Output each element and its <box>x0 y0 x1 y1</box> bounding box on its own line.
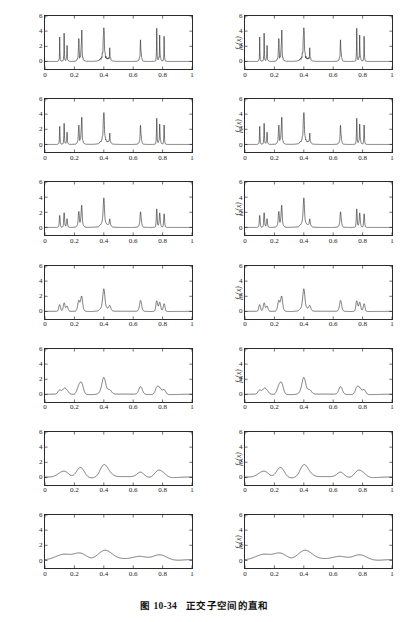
y-tick-label: 4 <box>39 360 43 367</box>
x-tick-label: 0.4 <box>299 154 308 162</box>
y-tick-label: 6 <box>239 13 243 20</box>
signal-curve <box>245 550 392 560</box>
x-tick-label: 0.2 <box>270 570 279 578</box>
x-tick-label: 0.4 <box>99 320 108 328</box>
plot-panel-r5-c2: f4(x)+g4(x)024600.20.40.60.81 <box>200 343 400 426</box>
plot-panel-r1-c2: f0(x)+g0(x)024600.20.40.60.81 <box>200 10 400 93</box>
plot-row: f4(x)024600.20.40.60.81f5(x)+g5(x)024600… <box>0 426 409 509</box>
x-tick-label: 0.2 <box>70 71 79 79</box>
plot-panel-r1-c1: f(x)024600.20.40.60.81 <box>0 10 200 93</box>
plot-panel-r7-c1: f5(x)024600.20.40.60.81 <box>0 509 200 592</box>
plot-row: f2(x)024600.20.40.60.81f3(x)+g3(x)024600… <box>0 260 409 343</box>
y-tick-label: 0 <box>239 474 243 481</box>
x-tick-label: 0 <box>243 154 247 162</box>
x-tick-label: 0.2 <box>70 320 79 328</box>
y-tick-label: 2 <box>239 292 243 299</box>
y-tick-label: 0 <box>39 307 43 314</box>
y-tick-label: 0 <box>239 141 243 148</box>
x-tick-label: 0.6 <box>329 570 338 578</box>
plot-panel-r3-c1: f1(x)024600.20.40.60.81 <box>0 176 200 259</box>
x-tick-label: 0.6 <box>329 154 338 162</box>
x-tick-label: 1 <box>190 320 194 328</box>
y-tick-label: 6 <box>39 179 43 186</box>
axes-box: 024600.20.40.60.81 <box>244 15 393 70</box>
axes-box: 024600.20.40.60.81 <box>44 98 193 153</box>
plot-curve-svg <box>45 182 192 235</box>
plot-panel-r3-c2: f2(x)+g2(x)024600.20.40.60.81 <box>200 176 400 259</box>
y-tick-label: 4 <box>239 194 243 201</box>
y-tick-label: 0 <box>39 58 43 65</box>
x-tick-label: 0.4 <box>99 570 108 578</box>
plot-panel-r5-c1: f3(x)024600.20.40.60.81 <box>0 343 200 426</box>
signal-curve <box>45 288 192 311</box>
x-tick-label: 0 <box>243 237 247 245</box>
y-tick-label: 6 <box>239 179 243 186</box>
x-tick-label: 0.8 <box>358 403 367 411</box>
y-tick-label: 6 <box>39 428 43 435</box>
axes-box: 024600.20.40.60.81 <box>44 431 193 486</box>
x-tick-label: 0 <box>243 71 247 79</box>
x-tick-label: 0.8 <box>358 320 367 328</box>
y-tick-label: 0 <box>239 557 243 564</box>
y-tick-label: 2 <box>239 459 243 466</box>
x-tick-label: 0.6 <box>329 71 338 79</box>
x-tick-label: 0.2 <box>270 320 279 328</box>
x-tick-label: 0.8 <box>158 570 167 578</box>
plot-panel-r2-c1: f0(x)024600.20.40.60.81 <box>0 93 200 176</box>
x-tick-label: 0.8 <box>158 486 167 494</box>
x-tick-label: 0.6 <box>329 486 338 494</box>
x-tick-label: 0 <box>43 403 47 411</box>
x-tick-label: 0.4 <box>99 154 108 162</box>
x-tick-label: 1 <box>390 154 394 162</box>
x-tick-label: 0.2 <box>270 71 279 79</box>
plot-curve-svg <box>245 266 392 319</box>
y-tick-label: 0 <box>239 58 243 65</box>
y-tick-label: 4 <box>39 194 43 201</box>
y-tick-label: 4 <box>239 111 243 118</box>
y-tick-label: 2 <box>39 459 43 466</box>
signal-curve <box>245 198 392 228</box>
x-tick-label: 1 <box>190 71 194 79</box>
axes-box: 024600.20.40.60.81 <box>244 348 393 403</box>
y-tick-label: 2 <box>39 542 43 549</box>
y-tick-label: 0 <box>239 391 243 398</box>
x-tick-label: 1 <box>190 154 194 162</box>
plot-curve-svg <box>245 432 392 485</box>
x-tick-label: 0.2 <box>70 486 79 494</box>
y-tick-label: 6 <box>39 512 43 519</box>
y-tick-label: 4 <box>39 444 43 451</box>
y-tick-label: 6 <box>239 428 243 435</box>
axes-box: 024600.20.40.60.81 <box>244 98 393 153</box>
plot-curve-svg <box>245 99 392 152</box>
x-tick-label: 0.6 <box>129 154 138 162</box>
y-tick-label: 4 <box>39 28 43 35</box>
plot-curve-svg <box>45 432 192 485</box>
signal-curve <box>45 198 192 228</box>
figure-caption-label: 图 10-34 <box>140 601 177 611</box>
x-tick-label: 0.6 <box>129 320 138 328</box>
axes-box: 024600.20.40.60.81 <box>244 514 393 569</box>
x-tick-label: 0.6 <box>129 486 138 494</box>
signal-curve <box>45 377 192 394</box>
x-tick-label: 0 <box>43 320 47 328</box>
x-tick-label: 0.6 <box>129 570 138 578</box>
x-tick-label: 0.8 <box>158 320 167 328</box>
y-tick-label: 0 <box>39 557 43 564</box>
signal-curve <box>245 464 392 477</box>
y-tick-label: 2 <box>239 43 243 50</box>
axes-box: 024600.20.40.60.81 <box>44 514 193 569</box>
x-tick-label: 1 <box>390 570 394 578</box>
signal-curve <box>45 113 192 145</box>
x-tick-label: 0.4 <box>299 570 308 578</box>
x-tick-label: 1 <box>390 237 394 245</box>
plot-curve-svg <box>45 16 192 69</box>
y-tick-label: 6 <box>239 262 243 269</box>
x-tick-label: 0.8 <box>358 237 367 245</box>
x-tick-label: 0.6 <box>129 403 138 411</box>
plot-panel-r7-c2: f6(x)+g6(x)024600.20.40.60.81 <box>200 509 400 592</box>
y-tick-label: 0 <box>39 474 43 481</box>
plot-panel-r2-c2: f1(x)+g1(x)024600.20.40.60.81 <box>200 93 400 176</box>
y-tick-label: 4 <box>39 527 43 534</box>
y-tick-label: 6 <box>39 262 43 269</box>
figure-caption-title: 正交子空间的直和 <box>186 600 268 611</box>
